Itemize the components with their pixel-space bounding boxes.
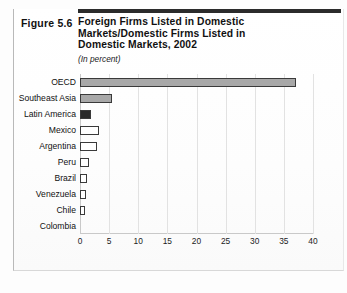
category-label-peru: Peru: [58, 155, 76, 169]
x-tick-15: 15: [163, 236, 172, 246]
x-tick-40: 40: [308, 236, 317, 246]
x-tick-20: 20: [192, 236, 201, 246]
category-axis-labels: OECDSoutheast AsiaLatin AmericaMexicoArg…: [13, 74, 78, 234]
figure-subtitle: (In percent): [78, 54, 328, 64]
bar-mexico: [80, 126, 99, 135]
category-label-southeast-asia: Southeast Asia: [19, 91, 76, 105]
figure-container: Figure 5.6 Foreign Firms Listed in Domes…: [0, 0, 347, 293]
gridline-15: [167, 74, 168, 234]
figure-title-block: Foreign Firms Listed in Domestic Markets…: [78, 16, 328, 64]
x-tick-10: 10: [134, 236, 143, 246]
gridline-20: [197, 74, 198, 234]
bar-brazil: [80, 174, 87, 183]
category-label-chile: Chile: [56, 203, 76, 217]
category-label-brazil: Brazil: [55, 171, 77, 185]
category-label-argentina: Argentina: [39, 139, 76, 153]
gridline-30: [255, 74, 256, 234]
gridline-25: [226, 74, 227, 234]
x-tick-35: 35: [279, 236, 288, 246]
figure-number-label: Figure 5.6: [21, 17, 73, 29]
category-label-mexico: Mexico: [49, 123, 76, 137]
header-rule: [78, 9, 341, 13]
figure-title-line-2: Markets/Domestic Firms Listed in: [78, 28, 328, 40]
x-tick-5: 5: [107, 236, 112, 246]
bar-venezuela: [80, 190, 86, 199]
bar-southeast-asia: [80, 94, 112, 103]
bar-chile: [80, 206, 85, 215]
chart-plot-wrapper: OECDSoutheast AsiaLatin AmericaMexicoArg…: [13, 74, 344, 249]
x-tick-30: 30: [250, 236, 259, 246]
x-tick-0: 0: [78, 236, 83, 246]
bar-argentina: [80, 142, 97, 151]
figure-title-line-1: Foreign Firms Listed in Domestic: [78, 16, 328, 28]
figure-title-line-3: Domestic Markets, 2002: [78, 39, 328, 51]
bar-latin-america: [80, 110, 91, 119]
category-label-oecd: OECD: [51, 75, 76, 89]
category-label-colombia: Colombia: [40, 219, 76, 233]
bar-peru: [80, 158, 89, 167]
gridline-40: [313, 74, 314, 234]
chart-plot-area: [80, 74, 313, 234]
gridline-10: [138, 74, 139, 234]
category-label-venezuela: Venezuela: [36, 187, 76, 201]
x-axis-tick-labels: 0510152025303540: [80, 236, 313, 252]
bar-oecd: [80, 78, 296, 87]
gridline-35: [284, 74, 285, 234]
category-label-latin-america: Latin America: [24, 107, 76, 121]
x-tick-25: 25: [221, 236, 230, 246]
